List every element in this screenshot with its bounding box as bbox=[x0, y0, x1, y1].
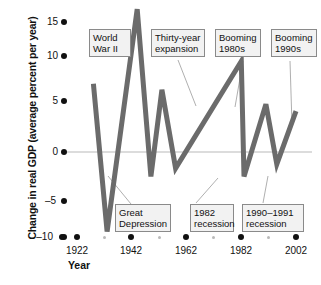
annotation-great-depression: Great Depression bbox=[115, 204, 171, 232]
x-axis-title: Year bbox=[57, 259, 101, 271]
x-tick-dot-1932 bbox=[103, 236, 106, 239]
x-tick-label-1982: 1982 bbox=[221, 246, 261, 256]
leader-1982-recession bbox=[196, 178, 218, 203]
annotation-booming-1980s: Booming 1980s bbox=[215, 29, 261, 57]
x-tick-dot-1952 bbox=[158, 236, 161, 239]
leader-thirty-year-expansion bbox=[178, 60, 196, 106]
annotation-world-war-ii: World War II bbox=[89, 29, 131, 57]
x-tick-label-2002: 2002 bbox=[276, 246, 316, 256]
leader-1990-1991-recession bbox=[263, 176, 268, 203]
gdp-line-chart: Change in real GDP (average percent per … bbox=[0, 0, 321, 285]
annotation-1990-1991-recession: 1990–1991 recession bbox=[242, 204, 304, 232]
x-tick-dot-1992 bbox=[267, 236, 270, 239]
x-tick-dot-1942 bbox=[128, 234, 134, 240]
x-tick-dot-1922 bbox=[74, 234, 80, 240]
x-tick-label-1962: 1962 bbox=[166, 246, 206, 256]
leader-booming-1990s bbox=[290, 61, 292, 125]
x-tick-label-1942: 1942 bbox=[111, 246, 151, 256]
annotation-booming-1990s: Booming 1990s bbox=[271, 29, 317, 57]
annotation-thirty-year-expansion: Thirty-year expansion bbox=[151, 29, 205, 57]
x-tick-dot-1972 bbox=[212, 236, 215, 239]
x-tick-dot-1962 bbox=[183, 234, 189, 240]
x-tick-dot-axis-start bbox=[59, 234, 65, 240]
x-tick-label-1922: 1922 bbox=[57, 246, 97, 256]
x-tick-dot-2002 bbox=[293, 234, 299, 240]
annotation-1982-recession: 1982 recession bbox=[190, 204, 234, 232]
x-tick-dot-1982 bbox=[238, 234, 244, 240]
